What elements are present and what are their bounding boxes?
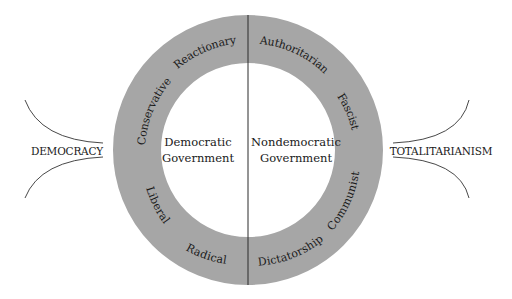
democracy-label: DEMOCRACY [31,145,104,157]
democratic-government-label-line2: Government [162,151,234,165]
political-spectrum-diagram: Reactionary Conservative Authoritarian F… [0,0,512,299]
democratic-government-label-line1: Democratic [164,135,231,149]
totalitarianism-label: TOTALITARIANISM [390,145,493,157]
nondemocratic-government-label-line1: Nondemocratic [251,135,341,149]
nondemocratic-government-label-line2: Government [260,151,332,165]
